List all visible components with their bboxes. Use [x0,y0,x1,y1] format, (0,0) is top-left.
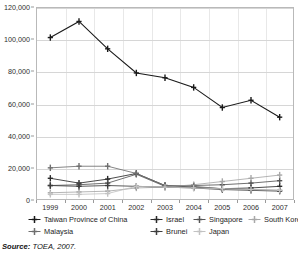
legend-label: Taiwan Province of China [44,215,127,224]
y-axis-tick-mark [31,71,34,72]
legend-label: Israel [166,215,184,224]
legend-marker-icon [28,215,41,224]
y-axis-tick-mark [31,7,34,8]
x-axis-tick-label: 2003 [157,203,173,212]
legend-marker-icon [28,227,41,236]
y-axis-tick-label: 60,000 [8,99,30,108]
y-axis-tick-label: 80,000 [8,67,30,76]
legend-label: Singapore [209,215,243,224]
legend-marker-icon [193,215,206,224]
series-line [50,21,279,117]
x-axis-tick-mark [237,200,238,203]
data-point-marker [220,104,225,110]
legend-marker-icon [248,215,261,224]
data-point-marker [48,165,53,171]
x-axis-tick-label: 2004 [186,203,202,212]
x-axis-tick-label: 2007 [272,203,288,212]
x-axis-tick-label: 2002 [128,203,144,212]
x-axis-tick-label: 2005 [214,203,230,212]
data-point-marker [48,34,53,40]
data-point-marker [220,186,225,192]
legend-item-malaysia[interactable]: Malaysia [28,227,73,236]
data-point-marker [277,172,282,178]
data-point-marker [48,175,53,181]
y-axis-tick-label: 0 [26,196,30,205]
legend-label: Japan [209,227,229,236]
figure: 020,00040,00060,00080,000100,000120,000 … [0,0,298,260]
x-axis-tick-label: 1999 [42,203,58,212]
legend-marker-icon [150,227,163,236]
x-axis-ticks: 199920002001200220032004200520062007 [36,200,294,214]
x-axis-tick-mark [93,200,94,203]
data-point-marker [248,97,253,103]
y-axis-tick-mark [31,103,34,104]
x-axis-tick-mark [208,200,209,203]
data-point-marker [277,114,282,120]
y-axis-tick-label: 120,000 [4,3,30,12]
chart-legend: Taiwan Province of ChinaIsraelSingaporeS… [0,214,298,240]
y-axis-ticks: 020,00040,00060,00080,000100,000120,000 [0,7,34,200]
legend-item-brunei[interactable]: Brunei [150,227,187,236]
y-axis-tick-mark [31,39,34,40]
legend-label: Brunei [166,227,187,236]
data-point-marker [220,178,225,184]
data-point-marker [277,178,282,184]
x-axis-tick-label: 2000 [71,203,87,212]
legend-label: South Korea [264,215,298,224]
chart-area: 020,00040,00060,00080,000100,000120,000 … [0,0,298,212]
y-axis-tick-mark [31,167,34,168]
data-point-marker [134,170,139,176]
legend-label: Malaysia [44,227,73,236]
x-axis-tick-mark [122,200,123,203]
source-label: Source: [2,242,30,251]
x-axis-tick-mark [265,200,266,203]
legend-item-japan[interactable]: Japan [193,227,229,236]
data-point-marker [48,182,53,188]
x-axis-tick-mark [36,200,37,203]
data-point-marker [76,163,81,169]
legend-item-taiwan-province-of-china[interactable]: Taiwan Province of China [28,215,127,224]
y-axis-tick-label: 20,000 [8,163,30,172]
x-axis-tick-label: 2006 [243,203,259,212]
source-text: TOEA, 2007. [32,242,76,251]
source-note: Source: TOEA, 2007. [2,242,76,251]
series-plot [36,7,294,200]
legend-item-singapore[interactable]: Singapore [193,215,243,224]
legend-item-israel[interactable]: Israel [150,215,184,224]
data-point-marker [277,187,282,193]
x-axis-tick-mark [151,200,152,203]
x-axis-tick-mark [65,200,66,203]
data-point-marker [191,84,196,90]
y-axis-tick-label: 100,000 [4,35,30,44]
x-axis-tick-label: 2001 [100,203,116,212]
legend-item-south-korea[interactable]: South Korea [248,215,298,224]
x-axis-tick-mark [179,200,180,203]
data-point-marker [162,75,167,81]
series-taiwan-province-of-china [48,18,283,120]
legend-marker-icon [193,227,206,236]
x-axis-tick-mark [294,200,295,203]
legend-marker-icon [150,215,163,224]
y-axis-tick-mark [31,200,34,201]
y-axis-tick-mark [31,135,34,136]
y-axis-tick-label: 40,000 [8,131,30,140]
data-point-marker [248,175,253,181]
data-point-marker [105,163,110,169]
